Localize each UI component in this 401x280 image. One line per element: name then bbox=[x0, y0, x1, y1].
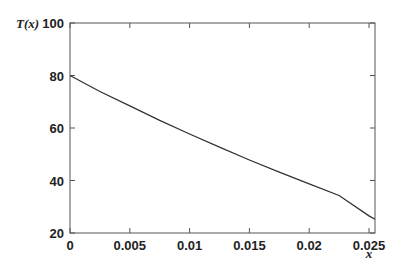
y-tick-label: 80 bbox=[50, 69, 64, 84]
y-tick-label: 60 bbox=[50, 121, 64, 136]
plot-border bbox=[70, 23, 375, 233]
x-tick-label: 0.015 bbox=[233, 238, 266, 253]
chart: 00.0050.010.0150.020.025 20406080100 T(x… bbox=[0, 0, 401, 280]
data-line-t-of-x bbox=[70, 76, 375, 220]
x-tick-label: 0.02 bbox=[297, 238, 322, 253]
x-tick-label: 0.005 bbox=[114, 238, 147, 253]
x-tick-labels: 00.0050.010.0150.020.025 bbox=[66, 238, 385, 253]
plot-frame bbox=[70, 23, 375, 233]
x-tick-label: 0 bbox=[66, 238, 73, 253]
y-tick-label: 100 bbox=[42, 16, 64, 31]
y-axis-label: T(x) bbox=[16, 16, 39, 31]
x-tick-label: 0.01 bbox=[177, 238, 202, 253]
y-tick-label: 40 bbox=[50, 174, 64, 189]
y-tick-label: 20 bbox=[50, 226, 64, 241]
y-tick-labels: 20406080100 bbox=[42, 16, 64, 241]
x-axis-label: x bbox=[365, 246, 373, 261]
axis-ticks bbox=[70, 23, 375, 233]
